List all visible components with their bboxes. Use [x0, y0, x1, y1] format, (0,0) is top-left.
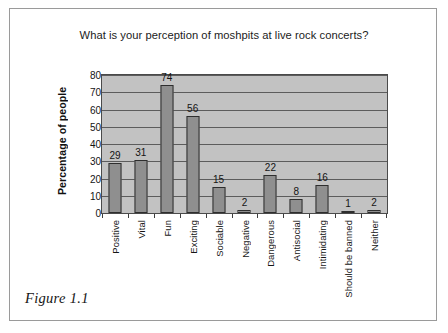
bar-slot: 29	[102, 75, 128, 213]
x-category-label: Intimidating	[317, 220, 328, 269]
bar-slot: 16	[309, 75, 335, 213]
figure-container: What is your perception of moshpits at l…	[9, 8, 437, 321]
bar-slot: 8	[283, 75, 309, 213]
x-axis-labels: PositiveVitalFunExcitingSociableNegative…	[102, 220, 387, 305]
bar[interactable]	[238, 210, 251, 213]
bar[interactable]	[160, 85, 173, 213]
bar[interactable]	[264, 175, 277, 213]
bar[interactable]	[108, 163, 121, 213]
x-category-label: Antisocial	[291, 220, 302, 261]
bar-value-label: 2	[242, 197, 248, 208]
bar-series: 293174561522281612	[102, 75, 387, 213]
x-category-label: Neither	[369, 220, 380, 251]
bar-value-label: 8	[294, 186, 300, 197]
x-tick-mark	[309, 214, 310, 218]
x-tick-mark	[283, 214, 284, 218]
bar-slot: 31	[128, 75, 154, 213]
bar[interactable]	[134, 160, 147, 213]
bar-slot: 15	[206, 75, 232, 213]
x-category-label: Exciting	[188, 220, 199, 254]
chart-title: What is your perception of moshpits at l…	[10, 29, 438, 41]
bar-value-label: 74	[161, 72, 172, 83]
x-tick-mark	[102, 214, 103, 218]
y-axis-title: Percentage of people	[54, 71, 70, 211]
x-tick-mark	[361, 214, 362, 218]
y-tick-label: 60	[75, 104, 101, 115]
bar-slot: 74	[154, 75, 180, 213]
x-category-label: Negative	[240, 220, 251, 258]
y-tick-label: 10	[75, 190, 101, 201]
bar-value-label: 16	[317, 172, 328, 183]
x-category-label: Sociable	[214, 220, 225, 257]
y-tick-label: 50	[75, 121, 101, 132]
x-tick-mark	[232, 214, 233, 218]
y-tick-label: 20	[75, 173, 101, 184]
x-category-label: Positive	[110, 220, 121, 254]
x-category-label: Vital	[136, 220, 147, 239]
bar-value-label: 15	[213, 174, 224, 185]
bar[interactable]	[186, 116, 199, 213]
y-axis-ticks: 01020304050607080	[70, 74, 101, 214]
bar[interactable]	[290, 199, 303, 213]
x-axis-ticks	[102, 214, 387, 219]
x-category-label: Should be banned	[343, 220, 354, 298]
y-tick-label: 70	[75, 87, 101, 98]
x-tick-mark	[335, 214, 336, 218]
x-category-label: Fun	[162, 220, 173, 236]
x-tick-mark	[257, 214, 258, 218]
bar-slot: 22	[257, 75, 283, 213]
bar-value-label: 22	[265, 162, 276, 173]
x-category-label: Dangerous	[265, 220, 276, 267]
bar-value-label: 29	[109, 150, 120, 161]
bar[interactable]	[342, 211, 355, 214]
bar-value-label: 2	[371, 197, 377, 208]
bar-value-label: 31	[135, 147, 146, 158]
bar[interactable]	[212, 187, 225, 213]
y-tick-label: 30	[75, 156, 101, 167]
x-tick-mark	[154, 214, 155, 218]
y-tick-label: 0	[75, 208, 101, 219]
x-tick-mark	[206, 214, 207, 218]
x-tick-mark	[180, 214, 181, 218]
y-tick-label: 40	[75, 139, 101, 150]
bar-slot: 1	[335, 75, 361, 213]
bar-value-label: 56	[187, 103, 198, 114]
y-tick-label: 80	[75, 70, 101, 81]
bar-slot: 2	[232, 75, 258, 213]
figure-caption: Figure 1.1	[25, 290, 89, 307]
bar-slot: 2	[361, 75, 387, 213]
x-tick-mark	[386, 214, 387, 218]
x-tick-mark	[128, 214, 129, 218]
bar-slot: 56	[180, 75, 206, 213]
bar[interactable]	[368, 210, 381, 213]
bar[interactable]	[316, 185, 329, 213]
bar-value-label: 1	[345, 198, 351, 209]
